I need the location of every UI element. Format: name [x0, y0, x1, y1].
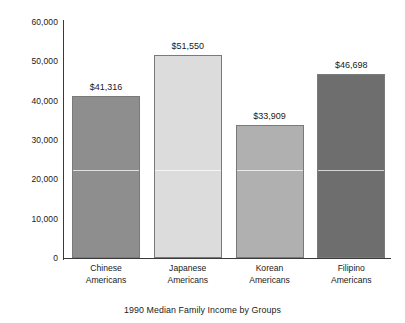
x-axis-line	[63, 258, 391, 259]
x-category-label-line: Americans	[249, 275, 290, 287]
bar-chart: 60,00050,00040,00030,00020,00010,0000 $4…	[0, 0, 405, 323]
y-axis-tick-labels: 60,00050,00040,00030,00020,00010,0000	[0, 0, 58, 323]
y-tick-label: 20,000	[6, 174, 58, 184]
y-tick-label: 60,000	[6, 17, 58, 27]
bar-value-label: $46,698	[335, 60, 368, 70]
plot-area: $41,316$51,550$33,909$46,698	[63, 22, 390, 258]
x-axis-category-labels: ChineseAmericansJapaneseAmericansKoreanA…	[63, 263, 391, 299]
bar	[317, 74, 385, 258]
x-category-label-line: Americans	[331, 275, 372, 287]
x-category-label: KoreanAmericans	[249, 263, 290, 286]
x-category-label-line: Americans	[167, 275, 208, 287]
bar	[154, 55, 222, 258]
x-category-label: JapaneseAmericans	[167, 263, 208, 286]
bar-value-label: $41,316	[90, 82, 123, 92]
bar-value-label: $33,909	[253, 111, 286, 121]
x-category-label: ChineseAmericans	[86, 263, 127, 286]
y-tick-label: 50,000	[6, 56, 58, 66]
chart-caption: 1990 Median Family Income by Groups	[0, 305, 405, 315]
bar	[236, 125, 304, 258]
bar-value-label: $51,550	[171, 41, 204, 51]
x-category-label-line: Chinese	[86, 263, 127, 275]
y-tick-label: 0	[6, 253, 58, 263]
y-tick-label: 40,000	[6, 96, 58, 106]
y-tick-label: 30,000	[6, 135, 58, 145]
x-category-label-line: Filipino	[331, 263, 372, 275]
y-tick-label: 10,000	[6, 214, 58, 224]
x-category-label-line: Japanese	[167, 263, 208, 275]
bar	[72, 96, 140, 259]
x-category-label-line: Americans	[86, 275, 127, 287]
x-category-label: FilipinoAmericans	[331, 263, 372, 286]
x-category-label-line: Korean	[249, 263, 290, 275]
